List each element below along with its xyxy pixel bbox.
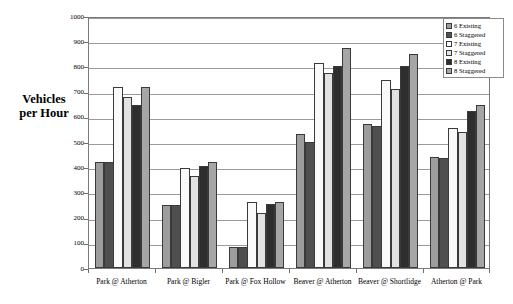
bar	[247, 202, 256, 268]
y-axis-tick-label: 600	[58, 114, 84, 121]
bar	[296, 134, 305, 268]
bar	[132, 105, 141, 268]
y-axis-tick-label: 1000	[58, 14, 84, 21]
bar	[363, 124, 372, 268]
bar-group	[95, 18, 150, 268]
bar	[372, 126, 381, 268]
y-axis-tick-label: 800	[58, 64, 84, 71]
bar	[458, 132, 467, 268]
bar	[275, 202, 284, 268]
bar	[266, 204, 275, 268]
bar	[257, 213, 266, 268]
bar	[381, 80, 390, 268]
bar	[141, 87, 150, 268]
legend-item: 6 Existing	[446, 21, 501, 30]
legend-swatch-icon	[446, 50, 452, 56]
x-axis-tick-labels: Park @ AthertonPark @ BiglerPark @ Fox H…	[88, 277, 490, 293]
bar	[123, 97, 132, 268]
x-axis-tick-mark	[489, 269, 490, 273]
bar	[171, 205, 180, 268]
bar	[476, 105, 485, 268]
bar-chart: Vehicles per Hour 1000900800700600500400…	[0, 0, 513, 304]
bar	[208, 162, 217, 268]
bar	[324, 73, 333, 268]
bar	[467, 111, 476, 268]
y-axis-tick-label: 900	[58, 39, 84, 46]
x-axis-tick-mark	[356, 269, 357, 273]
x-axis-tick-mark	[423, 269, 424, 273]
bar	[162, 205, 171, 268]
legend-item-label: 6 Existing	[454, 22, 481, 30]
x-axis-tick-mark	[222, 269, 223, 273]
bar	[333, 66, 342, 268]
legend-swatch-icon	[446, 68, 452, 74]
y-axis-tick-labels: 10009008007006005004003002001000	[56, 17, 84, 269]
y-axis-tick-label: 300	[58, 190, 84, 197]
bar	[229, 247, 238, 268]
bar	[113, 87, 122, 268]
bar	[104, 162, 113, 268]
legend-item: 7 Staggered	[446, 48, 501, 57]
bar-group	[229, 18, 284, 268]
x-axis-tick-mark	[88, 269, 89, 273]
legend-swatch-icon	[446, 41, 452, 47]
bar	[238, 247, 247, 268]
bar-group	[296, 18, 351, 268]
legend-item-label: 8 Existing	[454, 58, 481, 66]
legend-item-label: 7 Existing	[454, 40, 481, 48]
bar	[391, 89, 400, 268]
plot-area	[88, 17, 490, 269]
legend-swatch-icon	[446, 59, 452, 65]
bar	[180, 168, 189, 268]
legend-item-label: 6 Staggered	[454, 31, 485, 39]
bar	[448, 128, 457, 268]
bar	[400, 66, 409, 268]
bar	[199, 166, 208, 268]
x-axis-category-label: Atherton @ Park	[415, 277, 498, 286]
legend-item: 8 Existing	[446, 57, 501, 66]
y-axis-tick-label: 400	[58, 165, 84, 172]
legend-item: 6 Staggered	[446, 30, 501, 39]
bar	[305, 142, 314, 268]
bar	[342, 48, 351, 268]
legend-item-label: 8 Staggered	[454, 67, 485, 75]
bar-group	[162, 18, 217, 268]
bar	[430, 157, 439, 268]
x-axis-tick-mark	[155, 269, 156, 273]
legend-swatch-icon	[446, 32, 452, 38]
y-axis-tick-label: 100	[58, 240, 84, 247]
bar	[439, 158, 448, 268]
bar	[314, 63, 323, 268]
bar	[409, 54, 418, 268]
legend-item: 7 Existing	[446, 39, 501, 48]
legend-item-label: 7 Staggered	[454, 49, 485, 57]
y-axis-tick-label: 500	[58, 140, 84, 147]
x-axis-tick-mark	[289, 269, 290, 273]
x-axis-tick-marks	[88, 269, 490, 274]
y-axis-tick-label: 700	[58, 89, 84, 96]
legend-swatch-icon	[446, 23, 452, 29]
y-axis-tick-label: 0	[58, 266, 84, 273]
y-axis-tick-label: 200	[58, 215, 84, 222]
bar	[95, 162, 104, 268]
chart-legend: 6 Existing6 Staggered7 Existing7 Stagger…	[443, 18, 504, 78]
bar-group	[363, 18, 418, 268]
legend-item: 8 Staggered	[446, 66, 501, 75]
bar	[190, 176, 199, 268]
